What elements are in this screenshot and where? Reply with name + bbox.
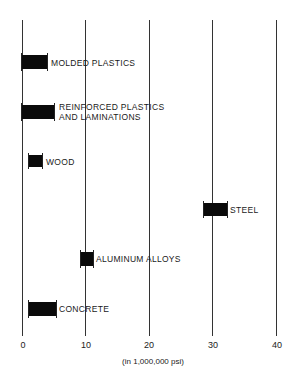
label-steel: STEEL <box>230 205 258 215</box>
bar-wood <box>29 155 42 167</box>
bar-reinforced-plastics <box>22 105 54 119</box>
bar-steel <box>204 203 227 216</box>
tick-0: 0 <box>20 340 25 350</box>
bar-aluminum-alloys <box>81 252 93 266</box>
label-wood: WOOD <box>46 157 75 167</box>
label-reinforced-plastics: REINFORCED PLASTICS AND LAMINATIONS <box>59 102 164 122</box>
tick-20: 20 <box>144 340 154 350</box>
bar-molded-plastics <box>22 55 47 69</box>
tick-40: 40 <box>272 340 282 350</box>
gridline-20 <box>149 20 150 336</box>
x-axis-label: (in 1,000,000 psi) <box>0 357 296 366</box>
label-concrete: CONCRETE <box>59 304 109 314</box>
gridline-40 <box>276 20 277 336</box>
tick-10: 10 <box>81 340 91 350</box>
label-aluminum-alloys: ALUMINUM ALLOYS <box>96 254 181 264</box>
tick-30: 30 <box>208 340 218 350</box>
bar-concrete <box>29 302 56 316</box>
gridline-30 <box>212 20 213 336</box>
modulus-of-elasticity-chart: MOLDED PLASTICS REINFORCED PLASTICS AND … <box>0 0 296 378</box>
label-molded-plastics: MOLDED PLASTICS <box>51 58 135 68</box>
